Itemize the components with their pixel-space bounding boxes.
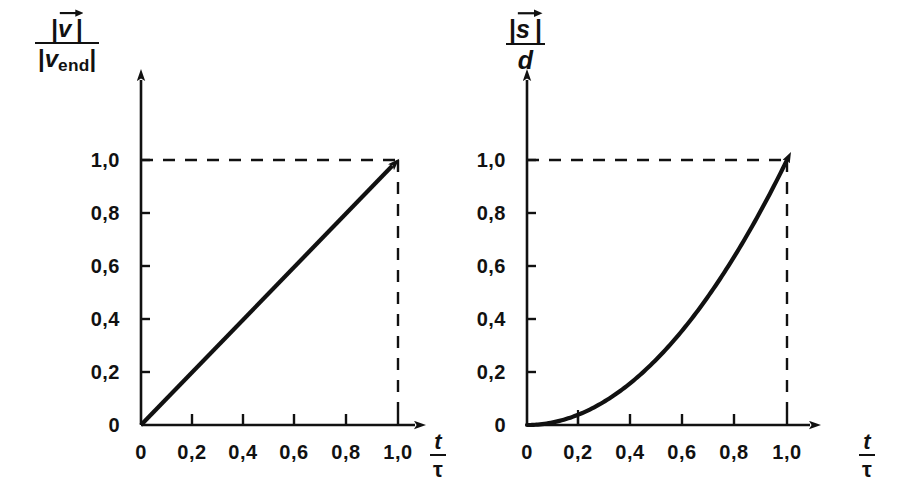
x-axis-label: t τ (430, 430, 446, 481)
y-tick-label: 0,4 (60, 308, 120, 331)
x-tick-label: 1,0 (368, 441, 428, 464)
y-axis-label-numerator: |s | (506, 16, 545, 43)
velocity-data-line (141, 166, 392, 425)
y-axis-numerator-symbol: v (58, 15, 71, 42)
displacement-curve (527, 160, 787, 425)
y-axis-label-denominator: |vend| (35, 42, 99, 74)
x-axis-label-numerator: t (859, 430, 875, 454)
y-tick-label: 0 (60, 414, 120, 437)
y-axis-ticks (527, 160, 536, 372)
x-tick-label: 0,8 (704, 441, 764, 464)
figure-canvas: |v | |vend| t τ 0 0,2 0,4 0,6 0,8 1,0 0 … (0, 0, 917, 501)
y-axis-numerator-symbol: s (516, 15, 530, 43)
y-axis-label: |v | |vend| (35, 16, 99, 74)
y-tick-label: 0,2 (446, 361, 506, 384)
y-tick-label: 0,8 (446, 202, 506, 225)
x-tick-label: 0,2 (548, 441, 608, 464)
velocity-chart: |v | |vend| t τ 0 0,2 0,4 0,6 0,8 1,0 0 … (0, 0, 460, 501)
x-tick-label: 1,0 (757, 441, 817, 464)
x-tick-label: 0,4 (600, 441, 660, 464)
y-axis-denominator-subscript: end (58, 55, 89, 75)
y-axis-label-numerator: |v | (35, 16, 99, 42)
y-tick-label: 1,0 (446, 149, 506, 172)
x-tick-label: 0,8 (316, 441, 376, 464)
y-tick-label: 0,6 (60, 255, 120, 278)
y-tick-label: 0 (446, 414, 506, 437)
y-tick-label: 0,4 (446, 308, 506, 331)
y-axis-label-denominator: d (506, 43, 545, 73)
y-tick-label: 0,6 (446, 255, 506, 278)
x-tick-label: 0,6 (264, 441, 324, 464)
x-axis-label-numerator: t (430, 430, 446, 454)
x-axis-label-denominator: τ (430, 454, 446, 481)
y-tick-label: 0,2 (60, 361, 120, 384)
x-axis-label-denominator: τ (859, 454, 875, 481)
x-axis-label: t τ (859, 430, 875, 481)
x-tick-label: 0,6 (652, 441, 712, 464)
y-axis-denominator-symbol: v (45, 45, 58, 72)
x-axis-ticks (192, 414, 398, 425)
y-tick-label: 1,0 (60, 149, 120, 172)
x-axis-ticks (578, 414, 787, 425)
displacement-chart-plot (457, 0, 917, 501)
y-axis-label: |s | d (506, 16, 545, 74)
y-axis-ticks (141, 160, 150, 372)
y-tick-label: 0,8 (60, 202, 120, 225)
displacement-chart: |s | d t τ 0 0,2 0,4 0,6 0,8 1,0 0 0,2 0… (457, 0, 917, 501)
